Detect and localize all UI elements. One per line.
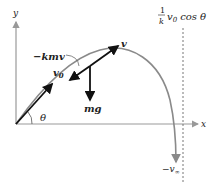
asymptote-fraction-denominator: k: [159, 17, 164, 26]
terminal-velocity-label: −v∞: [162, 164, 180, 175]
drag-force-label: −kmv: [33, 51, 65, 62]
drag-force-vector: [70, 66, 90, 80]
angle-arc: [28, 112, 32, 124]
velocity-label: v: [121, 38, 127, 49]
weight-label: mg: [84, 103, 102, 114]
asymptote-fraction-numerator: 1: [160, 6, 165, 15]
y-axis-label: y: [12, 8, 19, 18]
asymptote-expression: v0cosθ: [167, 11, 206, 24]
initial-velocity-vector: [16, 84, 52, 124]
x-axis-label: x: [201, 119, 206, 129]
trajectory-diagram: y x −kmv v v0 mg θ 1 k v0cosθ −v∞: [0, 0, 218, 182]
angle-label: θ: [40, 112, 46, 123]
